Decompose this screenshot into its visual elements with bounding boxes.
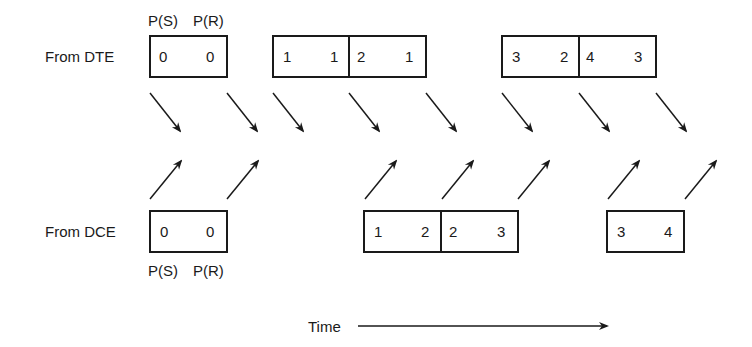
up-arrow-icon: [442, 161, 473, 199]
time-axis-label: Time: [308, 318, 341, 335]
dce-ps-footer: P(S): [148, 262, 178, 279]
down-arrow-icon: [502, 93, 532, 131]
frame-pr: 1: [405, 48, 413, 65]
dte-frame-group-2: 3 2 4 3: [502, 36, 656, 77]
dce-row-label: From DCE: [45, 223, 116, 240]
dte-pr-header: P(R): [193, 12, 224, 29]
frame-ps: 3: [512, 48, 520, 65]
frame-pr: 1: [330, 48, 338, 65]
up-arrow-icon: [227, 161, 258, 199]
dce-frame-3: 3 4: [607, 211, 684, 252]
frame-pr: 2: [421, 223, 429, 240]
down-arrow-icon: [227, 93, 257, 131]
up-arrow-icon: [608, 161, 639, 199]
dte-transmit-arrows: [150, 93, 686, 131]
down-arrow-icon: [426, 93, 456, 131]
down-arrow-icon: [656, 93, 686, 131]
frame-pr: 0: [206, 223, 214, 240]
up-arrow-icon: [150, 161, 181, 199]
dte-row-label: From DTE: [45, 48, 114, 65]
dte-ps-header: P(S): [148, 12, 178, 29]
dce-frame-0: 0 0: [150, 211, 227, 252]
up-arrow-icon: [518, 161, 549, 199]
frame-pr: 3: [634, 48, 642, 65]
frame-pr: 3: [497, 223, 505, 240]
frame-ps: 1: [374, 223, 382, 240]
frame-ps: 2: [449, 223, 457, 240]
dce-pr-footer: P(R): [193, 262, 224, 279]
frame-ps: 0: [159, 48, 167, 65]
frame-pr: 0: [206, 48, 214, 65]
up-arrow-icon: [365, 161, 396, 199]
frame-sequence-diagram: From DTE P(S) P(R) 0 0 1 1 2 1 3 2 4 3: [0, 0, 752, 347]
dce-frame-group-1: 1 2 2 3: [364, 211, 518, 252]
frame-ps: 0: [160, 223, 168, 240]
frame-ps: 3: [617, 223, 625, 240]
frame-pr: 4: [664, 223, 672, 240]
down-arrow-icon: [273, 93, 303, 131]
frame-pr: 2: [560, 48, 568, 65]
up-arrow-icon: [685, 161, 716, 199]
down-arrow-icon: [349, 93, 379, 131]
frame-ps: 1: [283, 48, 291, 65]
frame-ps: 2: [357, 48, 365, 65]
down-arrow-icon: [150, 93, 180, 131]
frame-ps: 4: [586, 48, 594, 65]
down-arrow-icon: [579, 93, 609, 131]
dte-frame-group-1: 1 1 2 1: [273, 36, 426, 77]
dte-frame-0: 0 0: [150, 36, 227, 77]
dce-transmit-arrows: [150, 161, 716, 199]
